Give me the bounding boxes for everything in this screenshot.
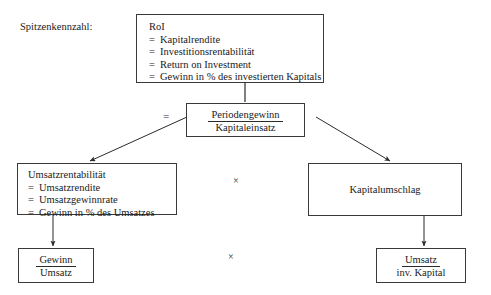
node-umsatzrentabilitaet-content: Umsatzrentabilität =Umsatzrendite =Umsat… (18, 164, 176, 219)
operator-equals: = (163, 111, 169, 122)
fraction-umsatz-inv-kapital: Umsatz inv. Kapital (377, 254, 465, 280)
roi-definition-item: =Return on Investment (149, 59, 323, 72)
roi-definition-list: RoI =Kapitalrendite =Investitionsrentabi… (149, 21, 323, 84)
fraction-gewinn-umsatz: Gewinn Umsatz (19, 254, 93, 280)
node-kapitalumschlag: Kapitalumschlag (308, 163, 462, 216)
operator-times-upper: × (233, 176, 239, 186)
umsatzrentabilitaet-heading: Umsatzrentabilität (28, 169, 176, 182)
umsatzrentabilitaet-definition-item: =Gewinn in % des Umsatzes (28, 207, 176, 220)
diagram-canvas: Spitzenkennzahl: RoI =Kapitalrendite =In… (0, 0, 491, 295)
equals-prefix: = (28, 182, 39, 195)
roi-definition-item: =Investitionsrentabilität (149, 46, 323, 59)
equals-prefix: = (149, 34, 160, 47)
equals-prefix: = (149, 71, 160, 84)
node-gewinn-umsatz: Gewinn Umsatz (18, 248, 94, 283)
node-umsatz-inv-kapital: Umsatz inv. Kapital (376, 248, 466, 283)
node-umsatzrentabilitaet: Umsatzrentabilität =Umsatzrendite =Umsat… (17, 163, 177, 215)
equals-prefix: = (149, 46, 160, 59)
roi-heading: RoI (149, 21, 323, 34)
node-roi-content: RoI =Kapitalrendite =Investitionsrentabi… (137, 15, 323, 84)
arrow-periodengewinn-to-umsatzrentabilitaet (90, 117, 187, 161)
fraction-denominator: Umsatz (19, 267, 93, 279)
roi-definition-item: =Gewinn in % des investierten Kapitals (149, 71, 323, 84)
spitzenkennzahl-label: Spitzenkennzahl: (20, 21, 92, 33)
roi-definition-item: =Kapitalrendite (149, 34, 323, 47)
node-periodengewinn: Periodengewinn Kapitaleinsatz (186, 103, 305, 137)
umsatzrentabilitaet-definition-list: Umsatzrentabilität =Umsatzrendite =Umsat… (28, 169, 176, 219)
fraction-periodengewinn: Periodengewinn Kapitaleinsatz (187, 109, 304, 135)
fraction-numerator: Periodengewinn (208, 109, 282, 122)
fraction-denominator: Kapitaleinsatz (187, 122, 304, 134)
node-roi: RoI =Kapitalrendite =Investitionsrentabi… (136, 14, 324, 83)
umsatzrentabilitaet-definition-item: =Umsatzgewinnrate (28, 194, 176, 207)
fraction-numerator: Gewinn (36, 254, 75, 267)
fraction-denominator: inv. Kapital (377, 267, 465, 279)
umsatzrentabilitaet-definition-item: =Umsatzrendite (28, 182, 176, 195)
kapitalumschlag-label: Kapitalumschlag (309, 184, 461, 196)
equals-prefix: = (28, 194, 39, 207)
fraction-numerator: Umsatz (402, 254, 440, 267)
equals-prefix: = (149, 59, 160, 72)
arrow-periodengewinn-to-kapitalumschlag (316, 117, 390, 161)
operator-times-lower: × (228, 252, 234, 262)
equals-prefix: = (28, 207, 39, 220)
